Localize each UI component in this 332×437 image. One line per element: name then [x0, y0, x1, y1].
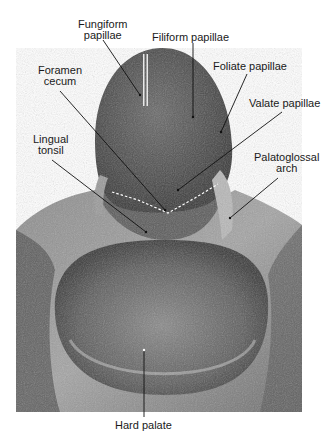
label-line: Valate papillae	[249, 98, 320, 109]
label-valate-papillae: Valate papillae	[249, 98, 320, 109]
label-hard-palate: Hard palate	[115, 420, 172, 431]
label-foramen-cecum: Foramen cecum	[38, 65, 82, 87]
label-lingual-tonsil: Lingual tonsil	[33, 134, 68, 156]
label-palatoglossal-arch: Palatoglossal arch	[254, 152, 319, 174]
probe	[143, 54, 145, 106]
label-line: arch	[254, 163, 319, 174]
label-line: Hard palate	[115, 420, 172, 431]
label-line: cecum	[38, 76, 82, 87]
label-line: Filiform papillae	[152, 32, 229, 43]
label-fungiform-papillae: Fungiform papillae	[78, 19, 128, 41]
label-line: papillae	[78, 30, 128, 41]
label-line: Foliate papillae	[213, 61, 287, 72]
label-filiform-papillae: Filiform papillae	[152, 32, 229, 43]
label-line: tonsil	[33, 145, 68, 156]
label-foliate-papillae: Foliate papillae	[213, 61, 287, 72]
anatomy-figure: Fungiform papillae Filiform papillae Fol…	[0, 0, 332, 437]
